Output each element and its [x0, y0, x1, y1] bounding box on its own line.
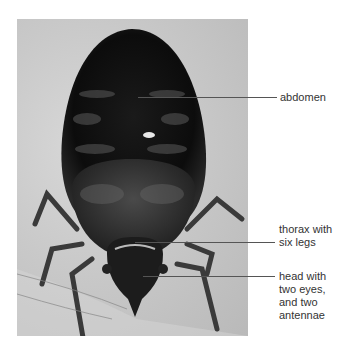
- abdomen-leader-line: [138, 97, 277, 98]
- label-abdomen: abdomen: [280, 91, 326, 104]
- label-head: head with two eyes, and two antennae: [279, 270, 326, 322]
- thorax-leader-line: [135, 242, 275, 243]
- bed-bug-photo: [17, 19, 248, 336]
- head-leader-line: [143, 276, 275, 277]
- label-thorax: thorax with six legs: [279, 223, 332, 249]
- bed-bug-illustration: [17, 19, 248, 336]
